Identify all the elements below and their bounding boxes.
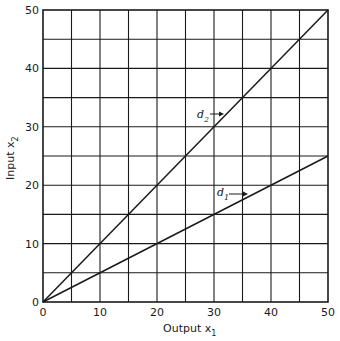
- x-tick-label: 40: [264, 306, 278, 319]
- arrowhead-d2-icon: [219, 112, 224, 117]
- chart: 01020304050 01020304050 Output x1 Input …: [0, 0, 340, 341]
- y-tick-label: 30: [25, 121, 39, 134]
- x-tick-labels: 01020304050: [40, 306, 336, 319]
- x-tick-label: 20: [150, 306, 164, 319]
- y-tick-label: 0: [32, 296, 39, 309]
- y-tick-label: 40: [25, 62, 39, 75]
- x-tick-label: 0: [40, 306, 47, 319]
- x-tick-label: 50: [321, 306, 335, 319]
- x-tick-label: 10: [93, 306, 107, 319]
- series-label-d1: d1: [217, 186, 229, 202]
- y-tick-label: 10: [25, 238, 39, 251]
- x-axis-label: Output x1: [163, 322, 216, 338]
- arrowhead-d1-icon: [243, 192, 248, 197]
- x-tick-label: 30: [207, 306, 221, 319]
- y-tick-label: 50: [25, 4, 39, 17]
- y-tick-label: 20: [25, 179, 39, 192]
- y-tick-labels: 01020304050: [25, 4, 39, 309]
- series-label-d2: d2: [197, 108, 209, 124]
- y-axis-label: Input x2: [4, 136, 20, 180]
